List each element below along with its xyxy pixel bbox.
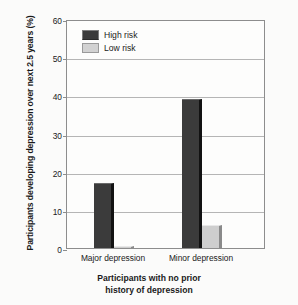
y-axis-tick-mark [63,21,67,22]
y-axis-tick-label: 20 [53,169,62,179]
y-axis-tick-mark [63,59,67,60]
bar-high-risk-1 [182,99,202,248]
y-axis-tick-mark [63,250,67,251]
y-axis-tick-label: 0 [57,245,62,255]
y-axis-tick-label: 60 [53,16,62,26]
bar-high-risk-0 [94,183,114,248]
gridline [67,136,264,137]
gridline [67,97,264,98]
y-axis-tick-mark [63,174,67,175]
y-axis-tick-label: 50 [53,54,62,64]
legend: High risk Low risk [80,27,139,55]
y-axis-tick-label: 30 [53,131,62,141]
gridline [67,174,264,175]
legend-swatch-low-risk [82,43,99,53]
legend-swatch-high-risk [82,30,99,40]
x-axis-title: Participants with no prior history of de… [0,272,298,296]
x-axis-category-label: Minor depression [169,253,233,263]
bar-chart-figure: Participants developing depression over … [0,0,298,305]
y-axis-tick-mark [63,136,67,137]
legend-item-low-risk: Low risk [82,41,137,54]
x-axis-category-label: Major depression [81,253,145,263]
y-axis-tick-label: 10 [53,207,62,217]
legend-label-high-risk: High risk [104,30,137,40]
legend-label-low-risk: Low risk [104,43,136,53]
x-axis-title-line-2: history of depression [0,284,298,296]
plot-area: 0102030405060 High risk Low risk [66,20,265,249]
x-axis-title-line-1: Participants with no prior [0,272,298,284]
legend-item-high-risk: High risk [82,28,137,41]
y-axis-tick-mark [63,212,67,213]
gridline [67,59,264,60]
y-axis-tick-mark [63,97,67,98]
bar-low-risk-0 [114,246,134,248]
bar-low-risk-1 [202,225,222,248]
y-axis-title: Participants developing depression over … [25,8,35,258]
y-axis-tick-label: 40 [53,92,62,102]
